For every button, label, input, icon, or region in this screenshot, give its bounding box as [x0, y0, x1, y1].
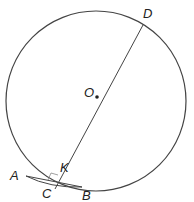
label-o: O	[84, 85, 94, 100]
circle-diagram: D O A K C B	[0, 0, 194, 202]
label-a: A	[9, 168, 19, 183]
label-k: K	[60, 160, 70, 175]
label-c: C	[42, 186, 52, 201]
label-b: B	[82, 188, 91, 202]
right-angle-marker	[48, 173, 58, 180]
circle	[6, 11, 186, 191]
label-d: D	[143, 6, 152, 21]
center-point-o	[95, 95, 99, 99]
